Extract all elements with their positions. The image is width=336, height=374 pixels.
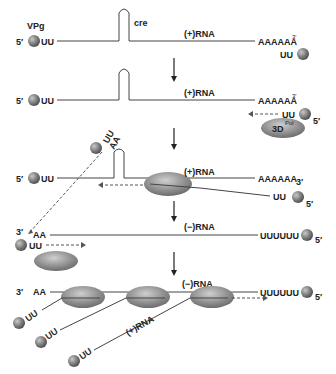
five-prime-label: 5′ bbox=[16, 174, 23, 184]
uu-label: UU bbox=[273, 192, 286, 202]
five-prime-label: 5′ bbox=[315, 292, 322, 302]
vpg-ball-icon bbox=[299, 108, 311, 120]
cre-label: cre bbox=[134, 18, 148, 28]
vpg-ball-icon bbox=[68, 355, 80, 367]
vpg-ball-icon bbox=[13, 317, 25, 329]
vpg-ball-icon bbox=[35, 336, 47, 348]
vpg-ball-icon bbox=[28, 35, 40, 47]
aa-label: AA bbox=[33, 230, 46, 240]
vpg-ball-icon bbox=[301, 286, 313, 298]
step-4: 3′ AA (−)RNA UUUUUU 5′ UU bbox=[15, 222, 322, 271]
vpg-ball-icon bbox=[15, 239, 27, 251]
five-prime-label: 5′ bbox=[313, 116, 320, 126]
vpg-ball-icon bbox=[292, 191, 304, 203]
arrowhead-icon bbox=[248, 111, 253, 117]
step-arrow-3 bbox=[171, 201, 177, 222]
step-3: UU AA 5′ UU (+)RNA AAAAAA 3′ UU 5′ bbox=[16, 129, 313, 232]
vpg-ball-icon bbox=[28, 172, 40, 184]
polymerase bbox=[34, 251, 78, 271]
plus-rna-label: (+)RNA bbox=[184, 29, 215, 39]
step-arrow-2 bbox=[171, 128, 177, 150]
arrowhead-icon bbox=[81, 242, 86, 248]
vpg-ball-icon bbox=[90, 142, 102, 154]
vpg-ball-icon bbox=[28, 94, 40, 106]
polymerase bbox=[126, 286, 170, 308]
uu-label: UU bbox=[23, 308, 39, 324]
aa-label: AA bbox=[33, 287, 46, 297]
plus-rna-label: (+)RNA bbox=[184, 88, 215, 98]
uu-label: UU bbox=[41, 96, 54, 106]
five-prime-label: 5′ bbox=[306, 199, 313, 209]
three-prime-label: 3′ bbox=[16, 287, 23, 297]
vpg-ball-icon bbox=[297, 48, 309, 60]
arrowhead-icon bbox=[98, 182, 103, 188]
polymerase bbox=[190, 286, 234, 308]
polymerase bbox=[61, 286, 105, 308]
uu-label: UU bbox=[41, 37, 54, 47]
five-prime-label: 5′ bbox=[16, 96, 23, 106]
vpg-ball-icon bbox=[301, 229, 313, 241]
plus-rna-strand-with-cre bbox=[57, 69, 255, 100]
primer-transfer-arrow bbox=[30, 152, 102, 232]
three-prime-label: 3′ bbox=[296, 177, 303, 187]
step-arrow-1 bbox=[171, 58, 177, 82]
step-arrow-4 bbox=[171, 252, 177, 276]
poly-a-label: AAAAAA bbox=[258, 174, 297, 184]
uu-label: UU bbox=[77, 346, 93, 362]
poly-u-label: UUUUUU bbox=[260, 288, 299, 298]
uu-label: UU bbox=[41, 174, 54, 184]
plus-rna-strand-with-cre bbox=[57, 9, 255, 41]
step-5: 3′ AA (−)RNA UUUUUU 5′ UU UU UU (+)RNA bbox=[13, 279, 322, 367]
vpg-label: VPg bbox=[27, 21, 45, 31]
five-prime-label: 5′ bbox=[16, 37, 23, 47]
rna-replication-diagram: VPg 5′ UU cre (+)RNA AAAAAA 3′ UU 5′ UU … bbox=[0, 0, 336, 374]
uu-label: UU bbox=[280, 50, 293, 60]
step-2: 5′ UU (+)RNA AAAAAA 3′ UU 5′ 3D Pol bbox=[16, 69, 320, 138]
five-prime-label: 5′ bbox=[315, 235, 322, 245]
uu-label: UU bbox=[29, 241, 42, 251]
plus-rna-label: (+)RNA bbox=[184, 167, 215, 177]
plus-rna-label: (+)RNA bbox=[124, 313, 156, 337]
minus-rna-label: (−)RNA bbox=[184, 222, 215, 232]
polymerase-sup-label: Pol bbox=[285, 120, 294, 126]
polymerase-label: 3D bbox=[272, 124, 284, 134]
three-prime-label: 3′ bbox=[16, 227, 23, 237]
step-1: VPg 5′ UU cre (+)RNA AAAAAA 3′ UU bbox=[16, 9, 309, 60]
poly-u-label: UUUUUU bbox=[260, 231, 299, 241]
